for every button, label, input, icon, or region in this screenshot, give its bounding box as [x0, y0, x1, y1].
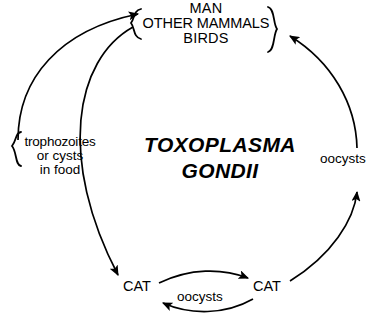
- food-label-or-cysts: or cysts: [12, 149, 108, 163]
- host-group-label: MAN OTHER MAMMALS BIRDS: [139, 1, 273, 45]
- cat-left-label: CAT: [123, 279, 151, 294]
- host-label-man: MAN: [139, 1, 273, 16]
- food-label-trophozoites: trophozoites: [12, 135, 108, 149]
- toxoplasma-life-cycle-diagram: MAN OTHER MAMMALS BIRDS trophozoites or …: [0, 0, 388, 325]
- food-label-in-food: in food: [12, 163, 108, 177]
- cat-right-label: CAT: [253, 279, 281, 294]
- oocysts-right-label: oocysts: [320, 152, 366, 166]
- oocysts-bottom-label: oocysts: [177, 290, 223, 304]
- organism-species: GONDII: [131, 158, 309, 184]
- host-label-birds: BIRDS: [139, 31, 273, 46]
- arrow-cat-to-oocysts: [290, 192, 357, 281]
- arrow-cat-to-cat-upper: [159, 271, 248, 283]
- organism-genus: TOXOPLASMA: [131, 132, 309, 158]
- organism-name-label: TOXOPLASMA GONDII: [131, 132, 309, 183]
- arrow-food-to-hosts: [18, 14, 138, 140]
- host-label-other-mammals: OTHER MAMMALS: [139, 16, 273, 31]
- food-source-label: trophozoites or cysts in food: [12, 135, 108, 176]
